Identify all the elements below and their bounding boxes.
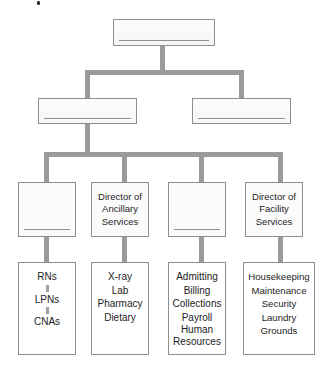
list-item: Security [262,297,297,311]
node-business-departments[interactable]: Admitting Billing Collections Payroll Hu… [168,262,226,355]
connector-level4-drop-1 [44,237,49,263]
list-item: Dietary [104,311,136,325]
connector-lpn-cna [46,307,49,314]
connector-level4-drop-2 [122,237,127,263]
node-director-facility-line-1: Director of [252,191,296,204]
connector-level3-feed [85,124,90,152]
node-director-facility-line-3: Services [256,216,292,229]
node-facility-departments[interactable]: Housekeeping Maintenance Security Laundr… [243,262,315,355]
node-nursing-staff[interactable]: RNs LPNs CNAs [18,262,76,355]
connector-level2-bus [85,70,244,75]
node-blank-rule [174,229,220,230]
node-top-executive[interactable] [113,19,215,46]
connector-level4-drop-3 [199,237,204,263]
org-chart-canvas: Director of Ancillary Services Director … [0,0,329,372]
connector-level3-drop-1 [44,152,49,182]
connector-level2-drop-left [85,70,90,98]
node-director-business[interactable] [168,182,226,237]
node-level2-left[interactable] [38,98,137,124]
connector-level3-drop-2 [122,152,127,182]
list-item: Lab [112,284,129,298]
node-blank-rule [198,118,285,119]
connector-level3-drop-3 [199,152,204,182]
connector-rn-lpn [46,285,49,292]
list-item: RNs [37,270,56,284]
list-item: Laundry [262,311,297,325]
node-blank-rule [24,229,70,230]
node-ancillary-departments[interactable]: X-ray Lab Pharmacy Dietary [91,262,149,355]
node-level2-right[interactable] [192,98,291,124]
list-item: Collections [173,297,222,311]
scan-artifact [37,1,40,5]
node-director-ancillary-line-2: Ancillary [102,203,138,216]
node-director-ancillary-line-1: Director of [98,191,142,204]
list-item: CNAs [34,315,60,329]
list-item: Pharmacy [97,297,142,311]
node-director-ancillary-line-3: Services [102,216,138,229]
connector-top-drop [160,46,165,70]
node-blank-rule [44,118,131,119]
list-item: LPNs [35,293,59,307]
list-item: Payroll [182,311,213,325]
connector-level3-drop-4 [278,152,283,182]
connector-level2-drop-right [239,70,244,98]
node-director-nursing[interactable] [18,182,76,237]
node-director-facility-line-2: Facility [259,203,289,216]
node-director-ancillary[interactable]: Director of Ancillary Services [91,182,149,237]
list-item: Grounds [261,324,298,338]
node-blank-rule [119,40,209,41]
connector-level3-bus [44,152,283,157]
node-director-facility[interactable]: Director of Facility Services [245,182,303,237]
connector-level4-drop-4 [278,237,283,263]
list-item: Admitting [176,270,218,284]
list-item: Billing [184,284,211,298]
list-item: Maintenance [252,284,307,298]
list-item: Human Resources [169,324,225,349]
list-item: X-ray [108,270,132,284]
list-item: Housekeeping [248,270,309,284]
